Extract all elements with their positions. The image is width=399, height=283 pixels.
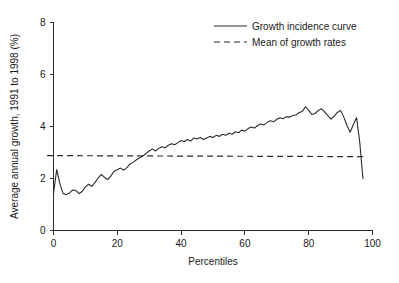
x-tick-label: 100 [364,238,381,249]
x-tick-label: 20 [112,238,124,249]
chart-legend: Growth incidence curve Mean of growth ra… [214,21,357,48]
y-tick-label: 2 [40,173,46,184]
growth-incidence-curve-series [54,107,363,195]
x-axis-title: Percentiles [188,256,237,267]
x-tick-label: 80 [303,238,315,249]
x-axis-ticks: 020406080100 [51,231,382,249]
x-tick-label: 60 [239,238,251,249]
mean-growth-rate-series [47,156,366,157]
legend-label-growth-incidence-curve: Growth incidence curve [252,21,357,32]
x-tick-label: 0 [51,238,57,249]
y-tick-label: 6 [40,69,46,80]
growth-incidence-chart: 02468 020406080100 Percentiles Average a… [0,0,399,283]
y-tick-label: 4 [40,121,46,132]
x-tick-label: 40 [176,238,188,249]
chart-canvas: 02468 020406080100 Percentiles Average a… [0,0,399,283]
y-tick-label: 8 [40,17,46,28]
y-axis-title: Average annual growth, 1991 to 1998 (%) [9,34,20,219]
legend-label-mean-of-growth-rates: Mean of growth rates [252,37,346,48]
y-axis-ticks: 02468 [40,17,54,236]
y-tick-label: 0 [40,225,46,236]
